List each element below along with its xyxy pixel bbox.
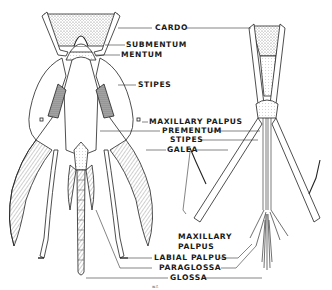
label-palpus: PALPUS: [178, 242, 214, 251]
label-mentum: MENTUM: [121, 50, 163, 59]
label-stipes-2: STIPES: [170, 135, 203, 144]
label-stipes: STIPES: [138, 80, 171, 89]
label-prementum: PREMENTUM: [162, 126, 222, 135]
mouthparts-diagram: CARDO SUBMENTUM MENTUM STIPES MAXILLARY …: [0, 0, 332, 290]
label-labial-palpus: LABIAL PALPUS: [154, 253, 227, 262]
label-maxillary: MAXILLARY: [178, 232, 232, 241]
label-galea: GALEA: [167, 145, 198, 154]
label-submentum: SUBMENTUM: [126, 40, 187, 49]
label-paraglossa: PARAGLOSSA: [159, 263, 221, 272]
artist-signature: w.f.: [152, 284, 159, 289]
label-glossa: GLOSSA: [170, 273, 207, 282]
label-cardo: CARDO: [155, 23, 188, 32]
label-maxillary-palpus: MAXILLARY PALPUS: [149, 117, 243, 126]
